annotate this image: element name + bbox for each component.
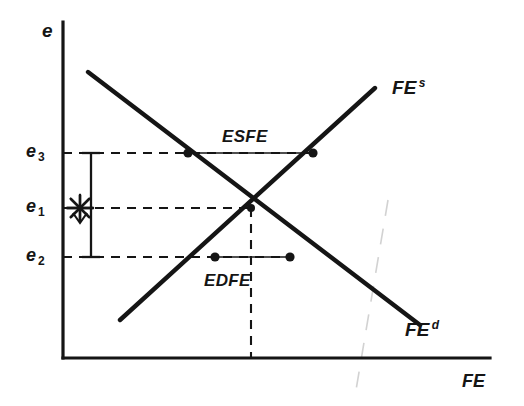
tick-label-e3-subscript: 3 bbox=[38, 150, 45, 164]
excess-demand-demand-point bbox=[285, 252, 294, 261]
star-marker bbox=[67, 195, 93, 221]
tick-label-e2-base: e bbox=[26, 245, 36, 265]
excess-supply-supply-point bbox=[308, 148, 317, 157]
supply-curve-label-superscript: s bbox=[419, 76, 426, 90]
diagram-graphics bbox=[0, 0, 524, 406]
figure-canvas: e e3 e1 e2 FEs FEd ESFE EDFE FE bbox=[0, 0, 524, 406]
tick-label-e2: e2 bbox=[26, 246, 43, 264]
equilibrium-point bbox=[247, 204, 255, 212]
tick-label-e2-subscript: 2 bbox=[38, 254, 45, 268]
x-axis-label: FE bbox=[462, 372, 485, 390]
tick-label-e1-base: e bbox=[26, 196, 36, 216]
tick-label-e1: e1 bbox=[26, 197, 43, 215]
supply-curve-label-base: FE bbox=[392, 77, 417, 98]
axes-group bbox=[63, 22, 490, 358]
demand-curve-label-base: FE bbox=[405, 319, 430, 340]
curves-group bbox=[88, 72, 420, 325]
excess-demand-supply-point bbox=[210, 252, 219, 261]
tick-label-e1-subscript: 1 bbox=[38, 205, 45, 219]
tick-label-e3-base: e bbox=[26, 141, 36, 161]
tick-label-e3: e3 bbox=[26, 142, 43, 160]
excess-supply-label: ESFE bbox=[222, 128, 268, 145]
demand-curve-label: FEd bbox=[405, 320, 437, 339]
y-axis-label: e bbox=[42, 21, 53, 40]
demand-curve bbox=[88, 72, 420, 325]
demand-curve-label-superscript: d bbox=[432, 318, 440, 332]
excess-supply-demand-point bbox=[183, 148, 192, 157]
supply-curve-label: FEs bbox=[392, 78, 424, 97]
excess-demand-label: EDFE bbox=[204, 272, 251, 289]
